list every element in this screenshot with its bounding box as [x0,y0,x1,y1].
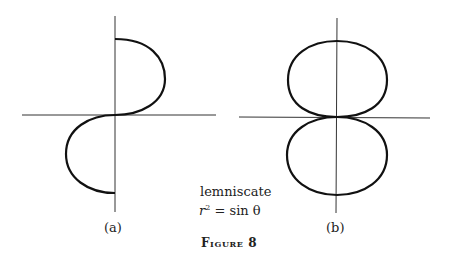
curve-name: lemniscate [200,184,271,199]
panel-a [22,16,216,212]
figure-caption: Figure 8 [201,236,257,250]
equation-operator: = [214,203,225,218]
equation-rhs: sin θ [230,203,261,218]
panel-b-label: (b) [326,220,344,235]
curve-equation: r2 = sin θ [199,203,261,218]
panel-a-curve-lower [66,115,115,193]
equation-exponent: 2 [205,203,210,212]
panel-b-y-axis [336,18,337,213]
panel-b-loop-upper [288,41,387,117]
panel-b-loop-lower [287,117,387,195]
panel-a-curve-upper [115,39,165,115]
panel-a-label: (a) [104,220,122,235]
